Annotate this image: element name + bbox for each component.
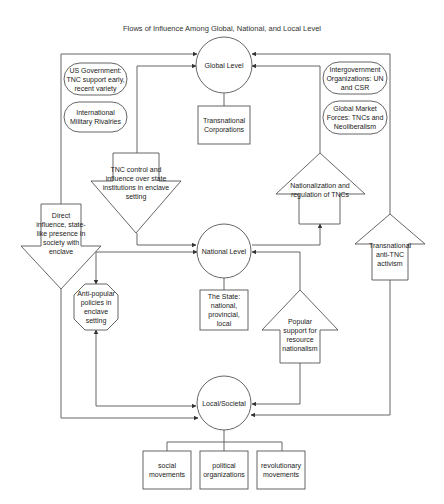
local-level-label: Local/Societal bbox=[196, 397, 252, 409]
connector-anti-popular-top bbox=[96, 252, 197, 284]
transnational-corporations-label: Transnational Corporations bbox=[200, 106, 248, 144]
connector-nationalization-top bbox=[252, 66, 320, 153]
social-movements-label: social movements bbox=[145, 451, 189, 489]
market-forces-label: Global Market Forces: TNCs and Neolibera… bbox=[325, 101, 385, 134]
national-level-label: National Level bbox=[196, 245, 252, 257]
revolutionary-movements-label: revolutionary movements bbox=[257, 451, 305, 489]
transnational-activism-label: Transnational anti-TNC activism bbox=[364, 236, 416, 272]
direct-influence-label: Direct influence, state-like presence in… bbox=[36, 206, 86, 260]
connector-global-tnc bbox=[137, 66, 196, 153]
intergovernment-label: Intergovernment Organizations: UN and CS… bbox=[325, 62, 385, 94]
anti-popular-label: Anti-popular policies in enclave setting bbox=[76, 286, 116, 328]
popular-support-label: Popular support for resource nationalism bbox=[276, 312, 324, 358]
connector-nationalization-bottom bbox=[252, 224, 320, 245]
military-rivalries-label: International Military Rivalries bbox=[70, 102, 121, 132]
connector-tnc-national bbox=[137, 233, 196, 245]
us-government-label: US Government: TNC support early, recent… bbox=[66, 63, 125, 95]
connector-popular-bottom bbox=[252, 363, 300, 404]
political-organizations-label: political organizations bbox=[200, 451, 248, 489]
tnc-control-label: TNC control and influence over state ins… bbox=[100, 158, 172, 208]
connector-anti-popular-bottom bbox=[96, 330, 196, 406]
nationalization-label: Nationalization and regulation of TNCs bbox=[286, 172, 354, 208]
global-level-label: Global Level bbox=[196, 59, 252, 71]
the-state-label: The State: national, provincial, local bbox=[202, 290, 246, 330]
connector-popular-top bbox=[252, 252, 300, 290]
